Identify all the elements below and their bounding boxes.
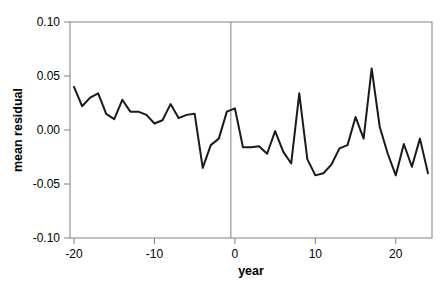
chart-figure: 0.10 0.05 0.00 -0.05 -0.10 -20 -10 0 10 … bbox=[0, 0, 447, 294]
y-tick-label: 0.10 bbox=[37, 15, 61, 29]
x-tick-label: -10 bbox=[146, 247, 164, 261]
y-tick-label: 0.05 bbox=[37, 69, 61, 83]
x-tick-label: 10 bbox=[309, 247, 323, 261]
x-tick-label: 0 bbox=[232, 247, 239, 261]
x-tick-label: -20 bbox=[65, 247, 83, 261]
chart-canvas: 0.10 0.05 0.00 -0.05 -0.10 -20 -10 0 10 … bbox=[0, 0, 447, 294]
y-axis-title: mean residual bbox=[11, 88, 25, 172]
y-tick-label: 0.00 bbox=[37, 123, 61, 137]
x-tick-label: 20 bbox=[389, 247, 403, 261]
y-tick-label: -0.05 bbox=[33, 177, 61, 191]
x-axis-title: year bbox=[238, 264, 264, 278]
y-tick-label: -0.10 bbox=[33, 231, 61, 245]
